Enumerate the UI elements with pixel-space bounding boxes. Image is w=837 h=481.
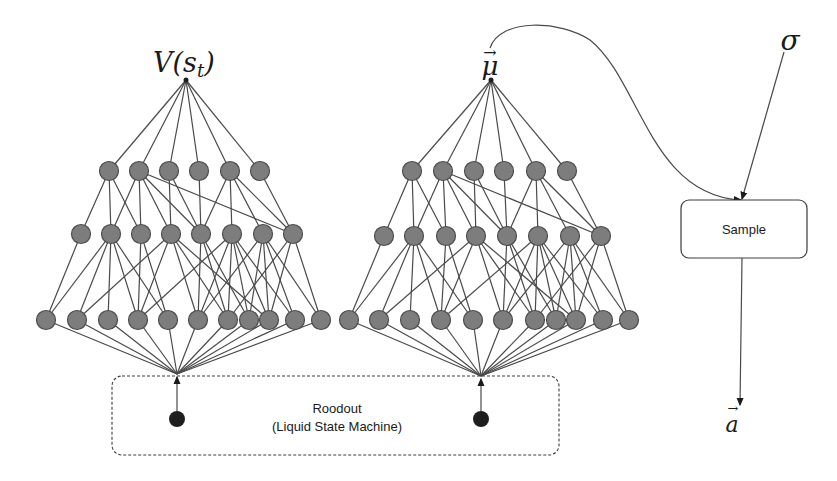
- neuron-mid-layer: [529, 227, 548, 246]
- neuron-bottom-layer: [240, 311, 259, 330]
- neuron-top-layer: [251, 162, 270, 181]
- neuron-mid-layer: [223, 225, 242, 244]
- readout-title: Roodout: [312, 401, 362, 416]
- neuron-bottom-layer: [370, 311, 389, 330]
- neuron-mid-layer: [561, 227, 580, 246]
- neuron-top-layer: [160, 162, 179, 181]
- neuron-top-layer: [221, 162, 240, 181]
- sigma-label: σ: [780, 24, 800, 57]
- value-label-close: ): [203, 47, 215, 78]
- neuron-mid-layer: [592, 227, 611, 246]
- mean-output-label: → μ: [482, 43, 499, 81]
- neuron-bottom-layer: [129, 311, 148, 330]
- neuron-mid-layer: [102, 225, 121, 244]
- readout-input-neuron: [473, 411, 489, 427]
- neuron-bottom-layer: [340, 311, 359, 330]
- svg-text:V(st): V(st): [153, 47, 215, 81]
- output-point: [184, 78, 189, 83]
- neuron-mid-layer: [467, 227, 486, 246]
- neuron-bottom-layer: [68, 311, 87, 330]
- neuron-bottom-layer: [189, 311, 208, 330]
- diagram-canvas: Sample Roodout (Liquid State Machine) V(…: [0, 0, 837, 481]
- readout-input-neuron: [169, 411, 185, 427]
- neuron-bottom-layer: [312, 311, 331, 330]
- neuron-bottom-layer: [159, 311, 178, 330]
- sample-box: Sample: [681, 200, 807, 258]
- neuron-bottom-layer: [567, 311, 586, 330]
- neuron-top-layer: [190, 162, 209, 181]
- neuron-mid-layer: [192, 225, 211, 244]
- neuron-mid-layer: [284, 225, 303, 244]
- neuron-mid-layer: [72, 225, 91, 244]
- neuron-bottom-layer: [620, 311, 639, 330]
- readout-subtitle: (Liquid State Machine): [272, 419, 402, 434]
- neuron-bottom-layer: [494, 311, 513, 330]
- neuron-top-layer: [465, 162, 484, 181]
- neuron-bottom-layer: [547, 311, 566, 330]
- mean-symbol: μ: [482, 51, 499, 81]
- neuron-top-layer: [403, 162, 422, 181]
- neuron-bottom-layer: [219, 311, 238, 330]
- neuron-mid-layer: [437, 227, 456, 246]
- neuron-mid-layer: [405, 227, 424, 246]
- value-label-main: V(s: [153, 47, 197, 78]
- neuron-bottom-layer: [99, 311, 118, 330]
- neuron-top-layer: [558, 162, 577, 181]
- neuron-mid-layer: [498, 227, 517, 246]
- neuron-bottom-layer: [37, 311, 56, 330]
- neuron-mid-layer: [254, 225, 273, 244]
- neuron-top-layer: [527, 162, 546, 181]
- action-symbol: a: [725, 412, 738, 437]
- neuron-top-layer: [434, 162, 453, 181]
- neuron-top-layer: [100, 162, 119, 181]
- neuron-top-layer: [495, 162, 514, 181]
- sample-label: Sample: [722, 222, 766, 237]
- action-output-label: → a: [725, 401, 738, 437]
- neuron-mid-layer: [375, 227, 394, 246]
- neuron-bottom-layer: [526, 311, 545, 330]
- neuron-bottom-layer: [260, 311, 279, 330]
- neuron-bottom-layer: [432, 311, 451, 330]
- lsm-actor-critic-diagram: Sample Roodout (Liquid State Machine) V(…: [0, 0, 837, 481]
- value-output-label: V(st): [153, 47, 215, 81]
- neuron-bottom-layer: [401, 311, 420, 330]
- neuron-bottom-layer: [286, 311, 305, 330]
- neuron-mid-layer: [132, 225, 151, 244]
- neuron-mid-layer: [162, 225, 181, 244]
- neuron-bottom-layer: [464, 311, 483, 330]
- neuron-bottom-layer: [594, 311, 613, 330]
- neuron-top-layer: [130, 162, 149, 181]
